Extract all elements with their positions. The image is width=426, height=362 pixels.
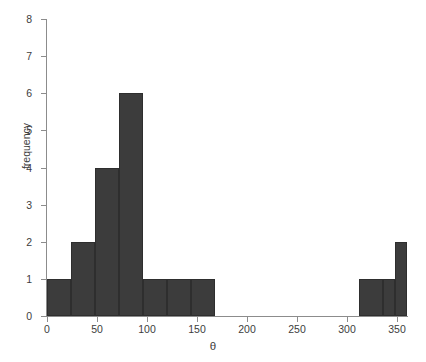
x-tick xyxy=(197,317,198,322)
x-axis-label: θ xyxy=(0,340,426,352)
x-tick-label: 250 xyxy=(275,324,319,335)
y-tick-label: 8 xyxy=(0,14,32,24)
x-tick-label: 300 xyxy=(325,324,369,335)
histogram-bar xyxy=(383,279,395,316)
histogram-bar xyxy=(47,279,71,316)
y-tick xyxy=(41,56,46,57)
x-tick-label: 0 xyxy=(25,324,69,335)
histogram-bar xyxy=(143,279,167,316)
y-tick xyxy=(41,19,46,20)
y-tick xyxy=(41,93,46,94)
histogram-bar xyxy=(359,279,383,316)
y-axis-label: frequency xyxy=(20,101,32,191)
y-tick-label: 1 xyxy=(0,274,32,284)
histogram-bar xyxy=(95,168,119,317)
histogram-bar xyxy=(119,93,143,316)
x-tick xyxy=(297,317,298,322)
y-tick-label: 3 xyxy=(0,200,32,210)
y-tick xyxy=(41,205,46,206)
x-tick xyxy=(347,317,348,322)
x-axis-line xyxy=(46,316,408,317)
x-tick-label: 100 xyxy=(125,324,169,335)
x-tick-label: 50 xyxy=(75,324,119,335)
y-tick-label: 0 xyxy=(0,311,32,321)
histogram-bar xyxy=(71,242,95,316)
y-tick-label: 2 xyxy=(0,237,32,247)
x-tick xyxy=(247,317,248,322)
histogram-figure: 012345678 050100150200250300350 frequenc… xyxy=(0,0,426,362)
plot-area xyxy=(47,19,407,316)
x-tick xyxy=(147,317,148,322)
y-tick xyxy=(41,168,46,169)
y-tick-label: 6 xyxy=(0,88,32,98)
y-tick xyxy=(41,316,46,317)
y-tick xyxy=(41,130,46,131)
x-tick xyxy=(97,317,98,322)
y-tick-label: 7 xyxy=(0,51,32,61)
histogram-bar xyxy=(191,279,215,316)
x-tick-label: 200 xyxy=(225,324,269,335)
y-tick xyxy=(41,279,46,280)
histogram-bar xyxy=(395,242,407,316)
x-tick-label: 150 xyxy=(175,324,219,335)
x-tick-label: 350 xyxy=(375,324,419,335)
x-tick xyxy=(47,317,48,322)
x-tick xyxy=(397,317,398,322)
y-tick xyxy=(41,242,46,243)
histogram-bar xyxy=(167,279,191,316)
